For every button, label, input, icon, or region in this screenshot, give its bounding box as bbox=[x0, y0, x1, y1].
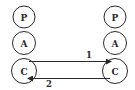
left-node-p-label: P bbox=[21, 13, 28, 23]
left-node-p: P bbox=[13, 6, 35, 28]
right-node-p: P bbox=[104, 6, 126, 28]
left-node-c-label: C bbox=[20, 67, 27, 77]
edge-2: 2 bbox=[28, 79, 110, 90]
protocol-stack-diagram: P A C P A C 1 2 bbox=[0, 0, 135, 90]
right-node-c: C bbox=[103, 59, 128, 84]
right-node-c-label: C bbox=[111, 67, 118, 77]
left-node-c: C bbox=[12, 59, 37, 84]
left-node-a-label: A bbox=[20, 39, 29, 49]
edge-2-label: 2 bbox=[46, 79, 52, 89]
edge-1-label: 1 bbox=[86, 50, 92, 60]
right-stack: P A C bbox=[103, 6, 128, 84]
right-node-a-label: A bbox=[111, 39, 120, 49]
right-node-p-label: P bbox=[112, 13, 119, 23]
left-node-a: A bbox=[13, 32, 36, 55]
right-node-a: A bbox=[104, 32, 127, 55]
left-stack: P A C bbox=[12, 6, 37, 84]
edge-1: 1 bbox=[29, 50, 111, 62]
